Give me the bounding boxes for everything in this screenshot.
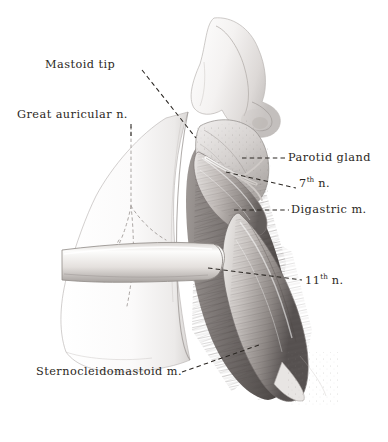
label-seventh-nerve: 7th n. [299,176,330,189]
label-eleventh-nerve-suffix: n. [328,274,344,287]
label-great-auricular-nerve: Great auricular n. [17,109,128,120]
retractor-band [62,242,225,282]
label-sternocleidomastoid-muscle: Sternocleidomastoid m. [36,366,182,377]
anatomical-figure: Mastoid tip Great auricular n. Parotid g… [0,0,388,442]
label-eleventh-nerve-ordinal: th [320,272,328,281]
label-digastric-muscle: Digastric m. [291,204,367,215]
label-mastoid-tip: Mastoid tip [45,59,115,70]
label-eleventh-nerve: 11th n. [305,273,344,286]
label-seventh-nerve-number: 7 [299,177,307,190]
label-parotid-gland: Parotid gland [288,152,371,163]
label-eleventh-nerve-number: 11 [305,274,320,287]
label-seventh-nerve-suffix: n. [314,177,330,190]
